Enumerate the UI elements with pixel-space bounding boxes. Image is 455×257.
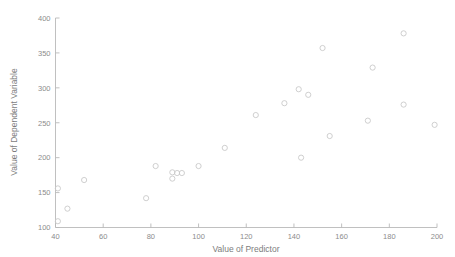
scatter-point: [55, 219, 60, 224]
scatter-point: [327, 133, 332, 138]
plot-canvas: 406080100120140160180200 100150200250300…: [0, 0, 455, 257]
y-tick-label: 350: [38, 49, 51, 58]
y-tick-label: 300: [38, 84, 51, 93]
x-tick-label: 120: [240, 232, 253, 241]
scatter-point: [298, 155, 303, 160]
scatter-point: [170, 176, 175, 181]
scatter-point: [153, 163, 158, 168]
scatter-point: [370, 65, 375, 70]
x-tick-label: 40: [51, 232, 59, 241]
scatter-point: [282, 101, 287, 106]
y-tick-label: 200: [38, 153, 51, 162]
data-point-markers: [55, 31, 437, 224]
y-axis-ticks: 100150200250300350400: [38, 14, 60, 233]
x-tick-label: 60: [99, 232, 107, 241]
scatter-point: [401, 102, 406, 107]
y-tick-label: 250: [38, 119, 51, 128]
scatter-point: [82, 177, 87, 182]
scatter-point: [65, 206, 70, 211]
scatter-point: [401, 31, 406, 36]
x-tick-label: 200: [431, 232, 444, 241]
y-tick-label: 400: [38, 14, 51, 23]
scatter-point: [222, 145, 227, 150]
x-tick-label: 80: [147, 232, 155, 241]
x-axis-ticks: 406080100120140160180200: [51, 224, 443, 241]
x-tick-label: 160: [335, 232, 348, 241]
scatter-point: [296, 87, 301, 92]
scatter-point: [144, 196, 149, 201]
y-axis-title: Value of Dependent Variable: [9, 68, 19, 176]
x-tick-label: 180: [383, 232, 396, 241]
y-tick-label: 150: [38, 188, 51, 197]
scatter-point: [253, 112, 258, 117]
scatter-point: [320, 45, 325, 50]
scatter-plot-figure: 406080100120140160180200 100150200250300…: [0, 0, 455, 257]
scatter-point: [196, 163, 201, 168]
y-tick-label: 100: [38, 223, 51, 232]
axes-group: [56, 18, 438, 228]
x-tick-label: 140: [288, 232, 301, 241]
x-tick-label: 100: [192, 232, 205, 241]
scatter-point: [306, 92, 311, 97]
scatter-point: [365, 118, 370, 123]
scatter-point: [432, 122, 437, 127]
x-axis-title: Value of Predictor: [213, 244, 280, 254]
scatter-point: [55, 186, 60, 191]
